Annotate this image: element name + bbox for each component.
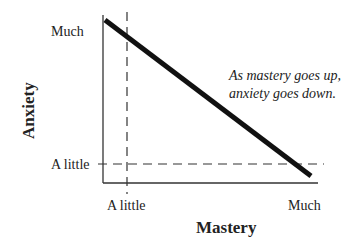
annotation-line-1: As mastery goes up, [228,68,341,83]
diagram-canvas: Much A little A little Much Mastery Anxi… [0,0,364,251]
y-tick-much: Much [51,24,84,39]
x-tick-a-little: A little [107,198,146,213]
x-tick-much: Much [288,198,321,213]
y-tick-a-little: A little [51,157,90,172]
x-axis-title: Mastery [196,218,257,237]
annotation-line-2: anxiety goes down. [229,86,336,101]
y-axis-title: Anxiety [19,82,38,139]
